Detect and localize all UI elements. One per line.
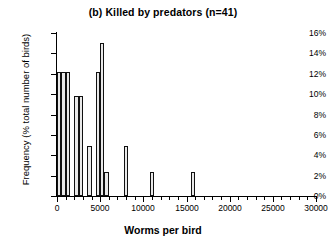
x-axis-tick-minor xyxy=(74,197,75,200)
y-axis-tick xyxy=(51,53,56,54)
x-axis-tick-minor xyxy=(83,197,84,200)
x-axis-tick-major xyxy=(316,197,317,202)
x-axis-tick-minor xyxy=(204,197,205,200)
x-axis-tick-minor xyxy=(264,197,265,200)
x-axis-tick-label: 25000 xyxy=(261,204,285,213)
y-axis-tick xyxy=(51,176,56,177)
x-axis-tick-minor xyxy=(169,197,170,200)
x-axis-tick-minor xyxy=(126,197,127,200)
x-axis-tick-label: 20000 xyxy=(218,204,242,213)
x-axis-tick-minor xyxy=(66,197,67,200)
x-axis-tick-minor xyxy=(117,197,118,200)
x-axis-tick-minor xyxy=(109,197,110,200)
y-axis-tick xyxy=(51,135,56,136)
x-axis-tick-major xyxy=(187,197,188,202)
histogram-bar xyxy=(191,172,195,196)
histogram-bar xyxy=(79,96,83,196)
x-axis-tick-label: 5000 xyxy=(91,204,110,213)
x-axis-tick-minor xyxy=(161,197,162,200)
x-axis-tick-major xyxy=(57,197,58,202)
x-axis-tick-label: 15000 xyxy=(175,204,199,213)
chart-title: (b) Killed by predators (n=41) xyxy=(0,6,326,18)
x-axis-tick-minor xyxy=(135,197,136,200)
histogram-bar xyxy=(87,146,91,196)
x-axis-tick-major xyxy=(100,197,101,202)
x-axis-tick-minor xyxy=(299,197,300,200)
x-axis-tick-minor xyxy=(152,197,153,200)
x-axis-tick-minor xyxy=(290,197,291,200)
y-axis-title: Frequency (% total number of birds) xyxy=(20,15,31,205)
histogram-bar xyxy=(150,172,154,196)
x-axis-tick-major xyxy=(230,197,231,202)
x-axis-tick-major xyxy=(143,197,144,202)
x-axis-tick-label: 30000 xyxy=(304,204,328,213)
x-axis-tick-label: 0 xyxy=(55,204,60,213)
x-axis-tick-minor xyxy=(238,197,239,200)
x-axis-tick-minor xyxy=(212,197,213,200)
y-axis-tick xyxy=(51,74,56,75)
x-axis-tick-minor xyxy=(281,197,282,200)
histogram-bar xyxy=(104,172,108,196)
histogram-bar xyxy=(124,146,128,196)
plot-area xyxy=(57,33,316,196)
x-axis-tick-minor xyxy=(247,197,248,200)
histogram-bar xyxy=(66,72,70,196)
x-axis-tick-label: 10000 xyxy=(131,204,155,213)
y-axis-tick xyxy=(51,155,56,156)
x-axis-tick-minor xyxy=(221,197,222,200)
y-axis-tick xyxy=(51,94,56,95)
x-axis-tick-minor xyxy=(307,197,308,200)
x-axis-tick-major xyxy=(273,197,274,202)
y-axis-tick xyxy=(51,33,56,34)
y-axis-tick xyxy=(51,196,56,197)
x-axis-tick-minor xyxy=(256,197,257,200)
y-axis-tick xyxy=(51,115,56,116)
x-axis-tick-minor xyxy=(92,197,93,200)
x-axis-tick-minor xyxy=(178,197,179,200)
x-axis-tick-minor xyxy=(195,197,196,200)
x-axis-title: Worms per bird xyxy=(0,224,326,236)
